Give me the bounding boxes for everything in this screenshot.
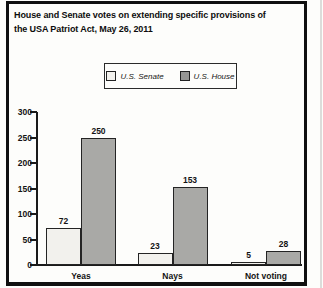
- figure-title-line2: the USA Patriot Act, May 26, 2011: [14, 23, 302, 37]
- scan-edge-artifact: [320, 0, 322, 288]
- legend-item-house: U.S. House: [180, 71, 235, 81]
- bar-house-yeas: [81, 138, 116, 266]
- y-axis-tick-label: 100: [6, 209, 32, 219]
- bar-value-label-senate-nays: 23: [138, 241, 173, 251]
- y-axis-tick-label: 250: [6, 133, 32, 143]
- y-axis-tick-label: 300: [6, 107, 32, 117]
- x-category-label: Yeas: [41, 271, 121, 281]
- bar-value-label-house-nays: 153: [173, 175, 208, 185]
- legend-item-senate: U.S. Senate: [106, 71, 163, 81]
- x-category-label: Not voting: [226, 271, 306, 281]
- legend-label-house: U.S. House: [194, 72, 235, 81]
- bar-senate-not-voting: [231, 262, 266, 265]
- bar-house-not-voting: [266, 251, 301, 265]
- bar-value-label-senate-yeas: 72: [46, 216, 81, 226]
- bar-senate-yeas: [46, 228, 81, 265]
- bar-senate-nays: [138, 253, 173, 265]
- bar-value-label-senate-not-voting: 5: [231, 250, 266, 260]
- house-swatch-icon: [180, 71, 190, 81]
- senate-swatch-icon: [106, 71, 116, 81]
- y-axis-tick-label: 0: [6, 260, 32, 270]
- bar-house-nays: [173, 187, 208, 265]
- bar-value-label-house-not-voting: 28: [266, 239, 301, 249]
- x-category-label: Nays: [133, 271, 213, 281]
- legend: U.S. Senate U.S. House: [104, 63, 237, 89]
- bar-value-label-house-yeas: 250: [81, 126, 116, 136]
- y-axis-tick-label: 150: [6, 184, 32, 194]
- figure-title-line1: House and Senate votes on extending spec…: [14, 9, 302, 23]
- y-axis-tick-label: 200: [6, 158, 32, 168]
- figure-title: House and Senate votes on extending spec…: [14, 9, 302, 36]
- legend-label-senate: U.S. Senate: [120, 72, 163, 81]
- y-axis-tick-label: 50: [6, 235, 32, 245]
- figure: House and Senate votes on extending spec…: [0, 0, 323, 288]
